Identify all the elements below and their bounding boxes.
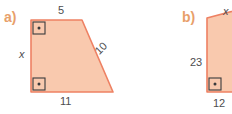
part-label-b: b) bbox=[182, 10, 195, 24]
dimension-label-b-hypotenuse: x bbox=[223, 6, 229, 17]
dimension-label-b-left: 23 bbox=[190, 57, 202, 68]
dimension-label-a-bottom: 11 bbox=[60, 96, 71, 107]
dimension-label-b-bottom: 12 bbox=[213, 98, 225, 109]
part-label-a: a) bbox=[4, 10, 16, 24]
dimension-label-a-top: 5 bbox=[58, 5, 64, 16]
dimension-label-a-left: x bbox=[19, 49, 25, 60]
geometry-figure: a) b) 5 x 10 11 x 23 12 bbox=[0, 0, 232, 114]
triangle-b-polygon bbox=[207, 8, 232, 92]
shape-b-triangle bbox=[207, 8, 232, 92]
